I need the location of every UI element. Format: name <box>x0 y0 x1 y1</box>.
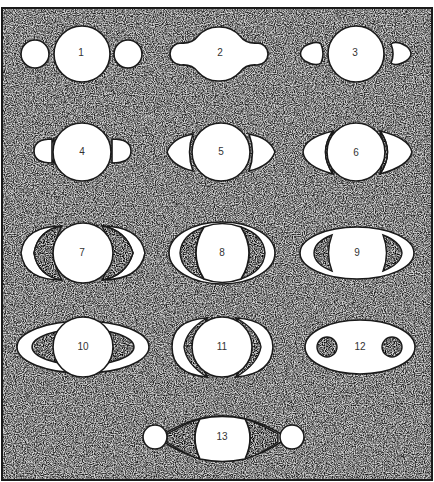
figure-label-12: 12 <box>354 341 366 352</box>
figure-label-5: 5 <box>218 146 224 157</box>
figure-label-1: 1 <box>78 47 84 58</box>
figure-label-10: 10 <box>77 341 89 352</box>
figure-label-11: 11 <box>217 341 228 352</box>
figure-label-6: 6 <box>353 147 359 158</box>
figure-8: 8 <box>169 222 275 284</box>
figure-11: 11 <box>172 317 273 377</box>
diagram-canvas: 1 2 3 4 5 6 <box>0 0 434 482</box>
figure-9: 9 <box>300 227 414 279</box>
figure-label-3: 3 <box>352 47 358 58</box>
figure-label-4: 4 <box>79 146 85 157</box>
saturn-appearances-diagram: 1 2 3 4 5 6 <box>0 0 434 482</box>
figure-label-7: 7 <box>79 247 85 258</box>
figure-label-13: 13 <box>216 431 228 442</box>
figure-7: 7 <box>21 223 145 283</box>
figure-label-8: 8 <box>219 247 225 258</box>
figure-12: 12 <box>305 320 415 374</box>
figure-label-9: 9 <box>354 247 360 258</box>
figure-label-2: 2 <box>217 47 223 58</box>
